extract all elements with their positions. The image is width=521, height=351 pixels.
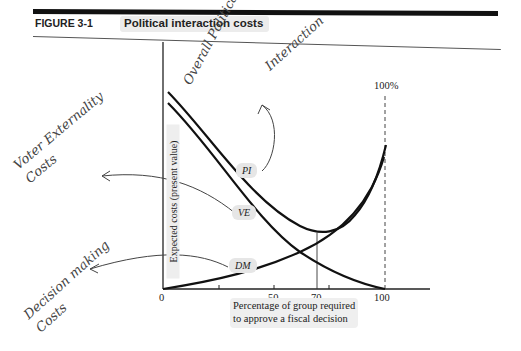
x-tick-label-0: 0: [159, 292, 164, 303]
pi-label: PI: [236, 163, 257, 178]
ve-label: VE: [232, 205, 256, 220]
x-tick-label-100: 100: [374, 292, 390, 303]
dm-curve: [163, 157, 384, 289]
limit-label: 100%: [374, 80, 399, 91]
arrow-icon: [258, 105, 275, 171]
x-axis-label-line1: Percentage of group required: [233, 299, 355, 312]
x-axis-label-line2: to approve a fiscal decision: [233, 312, 355, 325]
x-axis-label: Percentage of group required to approve …: [230, 298, 358, 328]
pi-curve: [168, 92, 386, 232]
y-axis-label: Expected costs (present value): [167, 125, 180, 279]
dm-label: DM: [229, 258, 257, 273]
